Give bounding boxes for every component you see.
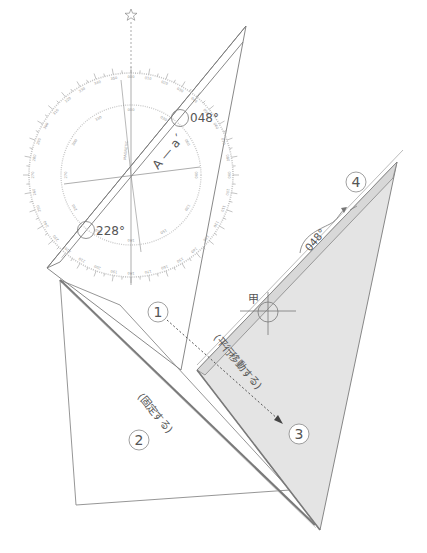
svg-text:080: 080 <box>225 154 230 162</box>
step-4-badge: 4 <box>346 172 366 192</box>
bearing-228-label: 228° <box>96 224 125 238</box>
svg-text:030: 030 <box>160 115 169 122</box>
svg-text:190: 190 <box>110 269 118 274</box>
course-line-label: A — a´ <box>150 131 187 172</box>
svg-text:210: 210 <box>77 256 86 263</box>
svg-text:260: 260 <box>32 188 37 196</box>
svg-text:000: 000 <box>128 75 136 79</box>
svg-text:090: 090 <box>194 172 198 180</box>
svg-text:2: 2 <box>135 432 144 448</box>
svg-text:270: 270 <box>64 171 68 179</box>
svg-text:4: 4 <box>352 174 361 190</box>
svg-text:130: 130 <box>202 234 210 242</box>
bearing-048-label: 048° <box>190 111 219 125</box>
svg-text:200: 200 <box>93 264 101 270</box>
svg-text:3: 3 <box>295 426 304 442</box>
svg-text:180: 180 <box>127 238 135 242</box>
svg-text:350: 350 <box>110 76 118 81</box>
svg-text:120: 120 <box>183 204 190 213</box>
svg-text:280: 280 <box>32 154 37 162</box>
svg-text:270: 270 <box>31 171 35 179</box>
step-2-badge: 2 <box>129 430 149 450</box>
svg-text:250: 250 <box>36 204 42 212</box>
point-kou-label: 甲 <box>248 293 259 306</box>
svg-text:150: 150 <box>159 228 168 235</box>
svg-text:1: 1 <box>154 304 163 320</box>
svg-text:290: 290 <box>36 137 42 145</box>
star-icon <box>125 9 137 20</box>
svg-text:100: 100 <box>225 188 230 196</box>
svg-text:180: 180 <box>127 271 135 275</box>
step-3-badge: 3 <box>289 424 309 444</box>
svg-text:110: 110 <box>220 205 226 213</box>
svg-text:010: 010 <box>144 76 152 81</box>
svg-text:300: 300 <box>71 138 78 147</box>
svg-text:090: 090 <box>227 172 231 180</box>
step-1-badge: 1 <box>148 302 168 322</box>
svg-text:160: 160 <box>160 264 168 270</box>
svg-text:020: 020 <box>161 80 169 86</box>
svg-text:000: 000 <box>128 108 136 112</box>
svg-text:330: 330 <box>95 115 104 122</box>
svg-text:340: 340 <box>94 80 102 86</box>
svg-text:240: 240 <box>42 219 49 228</box>
diagram-canvas: 0000100200300400500600700800901001101201… <box>0 0 427 553</box>
svg-text:170: 170 <box>144 269 152 274</box>
compass-rose: 0000100200300400500600700800901001101201… <box>23 22 239 285</box>
svg-text:070: 070 <box>220 138 226 146</box>
svg-text:240: 240 <box>71 203 78 212</box>
